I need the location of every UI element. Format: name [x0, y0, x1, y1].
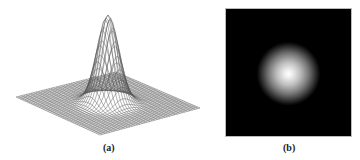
gaussian-intensity-image: [225, 8, 352, 137]
caption-a: (a): [103, 142, 115, 153]
gaussian-blob: [226, 9, 351, 136]
caption-b: (b): [283, 142, 295, 153]
gaussian-wireframe-surface: [0, 0, 215, 140]
